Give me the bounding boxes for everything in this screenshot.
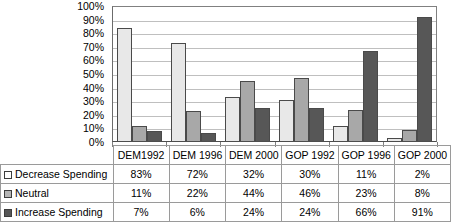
y-axis-tick-label: 50%	[83, 69, 104, 79]
bar	[294, 78, 309, 141]
table-cell: 66%	[338, 203, 394, 222]
y-axis-tick-label: 10%	[83, 123, 104, 133]
bar	[402, 130, 417, 141]
legend-label: Increase Spending	[15, 206, 103, 218]
bar-group	[221, 7, 275, 141]
table-cell: 11%	[113, 184, 169, 203]
table-column-header: GOP 1996	[338, 146, 394, 165]
bar	[201, 133, 216, 141]
table-cell: 8%	[394, 184, 450, 203]
bar	[279, 100, 294, 141]
y-axis-tick-label: 30%	[83, 96, 104, 106]
table-cell: 30%	[282, 165, 338, 184]
table-cell: 44%	[226, 184, 282, 203]
bar-group	[274, 7, 328, 141]
table-row: Decrease Spending83%72%32%30%11%2%	[1, 165, 451, 184]
table-column-header: DEM1992	[113, 146, 169, 165]
bar	[333, 126, 348, 141]
legend-entry: Decrease Spending	[1, 165, 114, 184]
y-axis-tick-label: 70%	[83, 42, 104, 52]
legend-entry: Neutral	[1, 184, 114, 203]
legend-swatch-icon	[4, 190, 12, 198]
y-axis-tick-label: 20%	[83, 110, 104, 120]
bar	[225, 97, 240, 141]
bar	[348, 110, 363, 141]
bar	[171, 43, 186, 141]
plot-area	[112, 6, 437, 142]
bar-group	[113, 7, 167, 141]
table-column-header: DEM 2000	[226, 146, 282, 165]
bar	[186, 111, 201, 141]
table-cell: 23%	[338, 184, 394, 203]
bar	[240, 81, 255, 141]
y-axis-tick-label: 60%	[83, 55, 104, 65]
bar	[417, 17, 432, 141]
plot-wrapper: 100%90%80%70%60%50%40%30%20%10%0%	[0, 6, 451, 156]
table-cell: 83%	[113, 165, 169, 184]
data-table: DEM1992DEM 1996DEM 2000GOP 1992GOP 1996G…	[0, 145, 451, 222]
table-cell: 91%	[394, 203, 450, 222]
table-cell: 22%	[169, 184, 225, 203]
bar	[132, 126, 147, 141]
bar	[363, 51, 378, 141]
table-cell: 24%	[282, 203, 338, 222]
bar	[387, 138, 402, 141]
table-cell: 2%	[394, 165, 450, 184]
table-row: Increase Spending7%6%24%24%66%91%	[1, 203, 451, 222]
chart-container: 100%90%80%70%60%50%40%30%20%10%0% DEM199…	[0, 0, 451, 223]
table-cell: 7%	[113, 203, 169, 222]
legend-label: Decrease Spending	[15, 168, 107, 180]
bar	[117, 28, 132, 141]
legend-label: Neutral	[15, 187, 49, 199]
y-axis-tick-label: 40%	[83, 83, 104, 93]
table-cell: 72%	[169, 165, 225, 184]
bar-group	[328, 7, 382, 141]
legend-swatch-icon	[4, 209, 12, 217]
table-cell: 6%	[169, 203, 225, 222]
y-axis: 100%90%80%70%60%50%40%30%20%10%0%	[0, 6, 108, 142]
bar	[255, 108, 270, 141]
table-row: Neutral11%22%44%46%23%8%	[1, 184, 451, 203]
y-axis-tick-label: 80%	[83, 28, 104, 38]
legend-swatch-icon	[4, 171, 12, 179]
bar-groups	[113, 7, 436, 141]
bar-group	[167, 7, 221, 141]
table-cell: 32%	[226, 165, 282, 184]
table-cell: 24%	[226, 203, 282, 222]
table-header-row: DEM1992DEM 1996DEM 2000GOP 1992GOP 1996G…	[1, 146, 451, 165]
table-column-header: DEM 1996	[169, 146, 225, 165]
table-column-header: GOP 2000	[394, 146, 450, 165]
bar	[309, 108, 324, 141]
bar	[147, 131, 162, 141]
bar-group	[382, 7, 436, 141]
table-corner-cell	[1, 146, 114, 165]
legend-entry: Increase Spending	[1, 203, 114, 222]
y-axis-tick-label: 90%	[83, 15, 104, 25]
table-cell: 11%	[338, 165, 394, 184]
table-cell: 46%	[282, 184, 338, 203]
table-column-header: GOP 1992	[282, 146, 338, 165]
y-axis-tick-label: 100%	[77, 1, 104, 11]
